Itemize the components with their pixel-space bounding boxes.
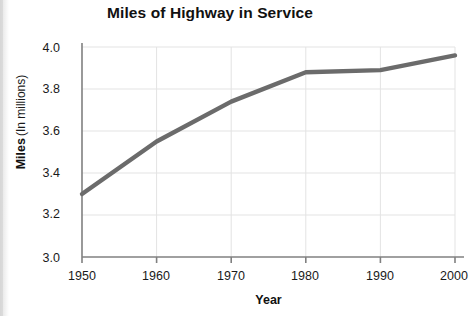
axis-tick-marks [82,257,455,263]
axis-lines [82,43,464,257]
horizontal-gridlines [82,47,455,215]
vertical-gridlines [157,47,455,257]
